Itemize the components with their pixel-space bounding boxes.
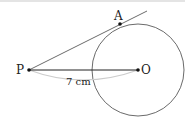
label-length: 7 cm <box>66 77 91 87</box>
point-o <box>136 68 140 72</box>
label-p: P <box>16 64 24 76</box>
label-o: O <box>141 64 151 76</box>
point-p <box>27 68 31 72</box>
label-a: A <box>114 10 123 22</box>
tangent-line-pa <box>29 11 147 70</box>
geometry-figure <box>0 0 195 125</box>
